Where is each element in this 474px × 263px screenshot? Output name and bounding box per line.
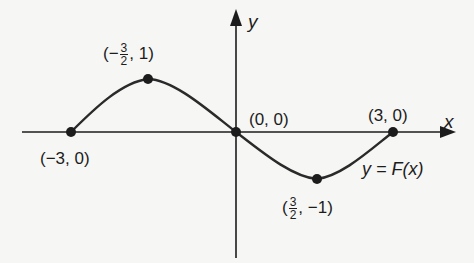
y-axis-arrow-icon xyxy=(230,9,242,26)
plot-area xyxy=(0,0,474,263)
x-axis-label: x xyxy=(444,112,454,131)
fraction: 32 xyxy=(120,42,129,67)
label-part: , −1) xyxy=(298,198,333,217)
point-label-neg3-0: (−3, 0) xyxy=(40,150,90,167)
fraction-denominator: 2 xyxy=(289,209,298,221)
label-part: (− xyxy=(103,44,119,63)
point-label-0-0: (0, 0) xyxy=(249,111,289,128)
point-1.5-neg1 xyxy=(312,174,322,184)
label-part: ( xyxy=(282,198,288,217)
point-neg1.5-1 xyxy=(143,74,153,84)
y-axis-label: y xyxy=(248,12,258,31)
point-label-neg1.5-1: (−32, 1) xyxy=(103,42,154,67)
fraction-denominator: 2 xyxy=(120,55,129,67)
point-label-3-0: (3, 0) xyxy=(368,107,408,124)
fraction: 32 xyxy=(289,196,298,221)
curve-label: y = F(x) xyxy=(362,160,424,178)
point-0-0 xyxy=(231,127,241,137)
point-label-1.5-neg1: (32, −1) xyxy=(282,196,333,221)
point-neg3-0 xyxy=(66,127,76,137)
point-3-0 xyxy=(388,127,398,137)
label-part: , 1) xyxy=(129,44,154,63)
